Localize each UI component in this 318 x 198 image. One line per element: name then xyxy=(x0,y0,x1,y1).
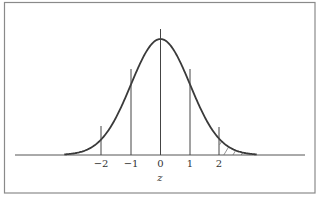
reference-lines xyxy=(101,29,219,155)
tick-label-minus-2: −2 xyxy=(94,158,109,169)
tick-labels: −2 −1 0 1 2 xyxy=(94,158,223,169)
tick-label-minus-1: −1 xyxy=(124,158,139,169)
tick-label-2: 2 xyxy=(216,158,222,169)
normal-distribution-figure: −2 −1 0 1 2 z xyxy=(0,0,318,198)
hatch-stroke xyxy=(224,147,229,155)
tick-label-1: 1 xyxy=(187,158,193,169)
tick-label-0: 0 xyxy=(157,158,163,169)
z-axis-label: z xyxy=(156,172,163,183)
